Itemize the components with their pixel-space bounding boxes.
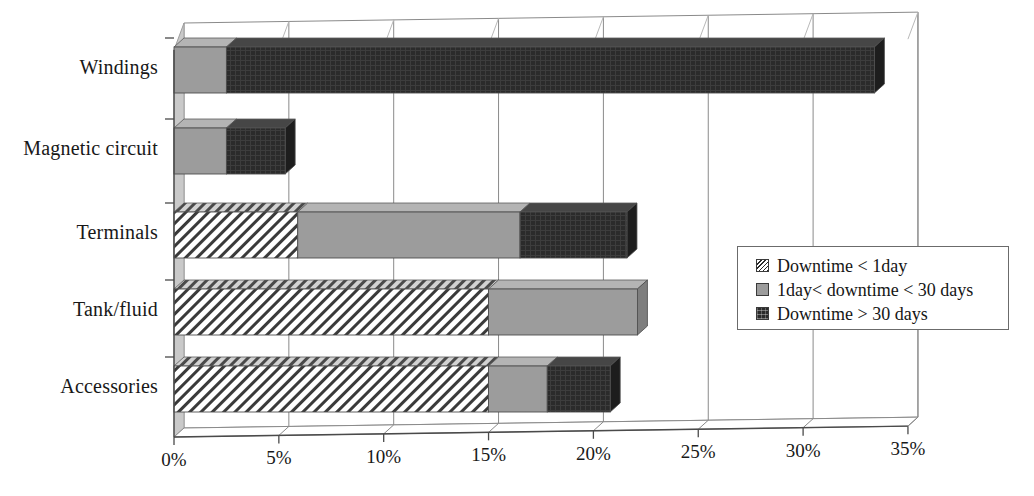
legend-item-downtime-lt-1day: Downtime < 1day [756,254,1008,277]
category-label: Windings [79,56,158,79]
category-label: Tank/fluid [73,298,158,321]
category-label: Magnetic circuit [23,137,158,160]
chart-container: WindingsMagnetic circuitTerminalsTank/fl… [0,0,1034,496]
bar-row [174,280,647,335]
x-tick-label: 25% [668,441,728,463]
x-tick-label: 30% [773,440,833,462]
x-tick-label: 15% [459,444,519,466]
legend-item-downtime-1-to-30-days: 1day< downtime < 30 days [756,278,1008,301]
legend-item-downtime-gt-30-days: Downtime > 30 days [756,302,1008,325]
x-tick-label: 10% [354,446,414,468]
x-tick-label: 35% [878,438,938,460]
bar-row [174,38,884,93]
x-tick-label: 0% [144,449,204,471]
legend-swatch-hatch [756,259,769,272]
bar-row [174,203,637,258]
category-label: Accessories [60,375,158,398]
x-tick-label: 5% [249,447,309,469]
x-tick-label: 20% [563,443,623,465]
bar-row [174,119,295,174]
legend-label: Downtime > 30 days [777,305,928,323]
bar-row [174,357,620,412]
category-label: Terminals [77,221,159,244]
legend-label: Downtime < 1day [777,257,907,275]
legend-swatch-gray [756,283,769,296]
chart-legend: Downtime < 1day 1day< downtime < 30 days… [737,246,1009,330]
legend-label: 1day< downtime < 30 days [777,281,973,299]
legend-swatch-dark [756,307,769,320]
